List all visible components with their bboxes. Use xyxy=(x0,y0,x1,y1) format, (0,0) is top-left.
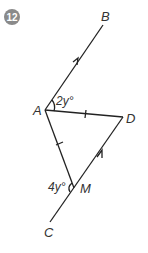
label-c: C xyxy=(44,225,54,240)
parallel-arrow-ab xyxy=(73,58,78,65)
label-m: M xyxy=(80,181,91,196)
line-ab xyxy=(45,25,103,110)
question-number-badge: 12 xyxy=(4,9,20,25)
geometry-diagram: 12 B A D M C 2y° 4y° xyxy=(0,0,148,253)
line-ad xyxy=(45,110,123,117)
angle-label-4y: 4y° xyxy=(48,180,66,194)
label-a: A xyxy=(32,103,42,118)
equal-tick-ad xyxy=(85,110,86,118)
line-dc xyxy=(50,117,123,222)
line-am xyxy=(45,110,74,188)
angle-arc-a xyxy=(52,100,55,111)
label-b: B xyxy=(101,9,110,24)
svg-text:12: 12 xyxy=(6,12,18,23)
angle-label-2y: 2y° xyxy=(55,94,74,108)
label-d: D xyxy=(126,111,135,126)
